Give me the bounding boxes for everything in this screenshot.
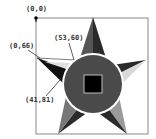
star-diagram: (0,0) (53,60) (0,66) (41,81) bbox=[0, 0, 156, 139]
leader-line-top bbox=[69, 43, 74, 60]
leader-line-bottom bbox=[46, 80, 60, 96]
label-bottom-point: (41,81) bbox=[25, 96, 55, 104]
label-left-point: (0,66) bbox=[9, 42, 34, 50]
leader-line-left bbox=[28, 50, 40, 58]
label-top-point: (53,60) bbox=[54, 34, 84, 42]
label-origin: (0,0) bbox=[26, 5, 47, 13]
center-square bbox=[84, 75, 102, 93]
